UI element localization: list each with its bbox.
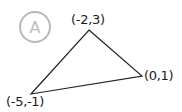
vertex-label-top: (-2,3) (71, 13, 105, 26)
vertex-label-right: (0,1) (144, 69, 173, 82)
triangle (31, 30, 142, 94)
vertex-label-bottom-left: (-5,-1) (6, 95, 44, 108)
